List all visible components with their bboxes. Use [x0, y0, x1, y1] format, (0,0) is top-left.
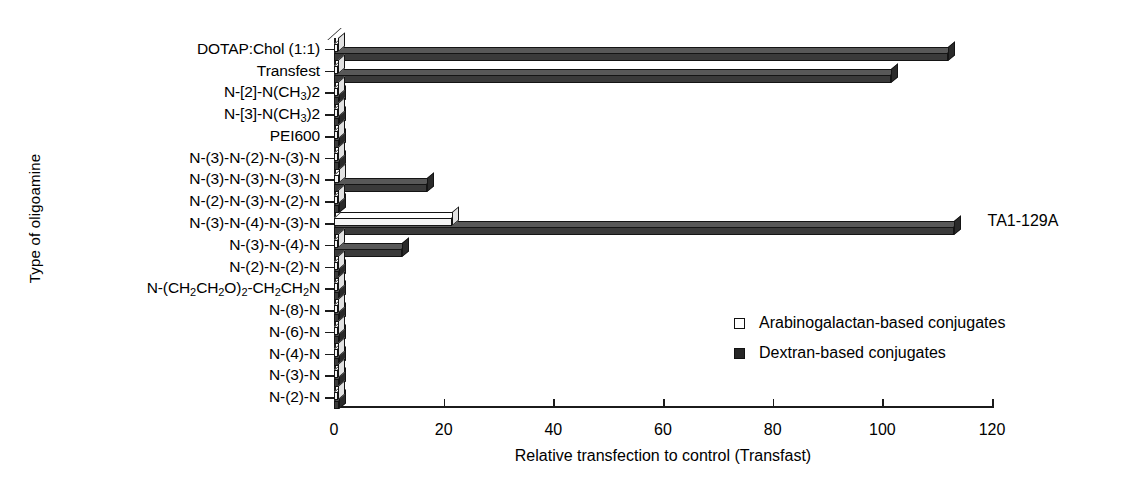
- bar-annotation: TA1-129A: [988, 212, 1059, 230]
- y-axis-tick: [325, 114, 334, 116]
- bar-arabinogalactan: [334, 392, 338, 400]
- y-axis-tick: [325, 375, 334, 377]
- bar-dextran: [334, 184, 427, 192]
- y-axis-tick: [325, 397, 334, 399]
- x-axis-tick: [773, 399, 775, 408]
- y-axis-tick: [325, 92, 334, 94]
- y-axis-tick: [325, 71, 334, 73]
- y-axis-tick: [325, 310, 334, 312]
- bar-arabinogalactan: [334, 262, 338, 270]
- bar-arabinogalactan: [334, 66, 338, 74]
- y-axis-tick-label: N-[2]-N(CH3)2: [224, 81, 320, 103]
- bar-arabinogalactan: [334, 131, 338, 139]
- bar-side: [954, 215, 961, 235]
- bar-arabinogalactan: [334, 218, 452, 226]
- x-axis-tick-label: 20: [435, 421, 453, 439]
- legend-swatch-filled-icon: [734, 348, 745, 359]
- bar-face: [334, 53, 948, 61]
- x-axis-tick-label: 60: [654, 421, 672, 439]
- bar-arabinogalactan: [334, 109, 338, 117]
- bar-arabinogalactan: [334, 153, 338, 161]
- y-axis-tick-label: N-(3)-N: [269, 364, 320, 386]
- y-axis-tick: [325, 267, 334, 269]
- y-axis-tick: [325, 201, 334, 203]
- x-axis-tick-label: 0: [330, 421, 339, 439]
- y-axis-tick-label: N-(3)-N-(2)-N-(3)-N: [189, 147, 320, 169]
- legend-item: Dextran-based conjugates: [734, 338, 1005, 368]
- y-axis-tick: [325, 288, 334, 290]
- bar-arabinogalactan: [334, 349, 338, 357]
- y-axis-tick-label: N-(2)-N: [269, 386, 320, 408]
- y-axis-tick-label: N-(2)-N-(3)-N-(2)-N: [189, 190, 320, 212]
- y-axis-tick-label: Transfest: [257, 60, 320, 82]
- bar-arabinogalactan: [334, 305, 338, 313]
- bar-arabinogalactan: [334, 240, 338, 248]
- x-axis-tick-label: 80: [764, 421, 782, 439]
- y-axis-tick: [325, 49, 334, 51]
- x-axis-tick-label: 40: [544, 421, 562, 439]
- y-axis-tick-label: N-(3)-N-(3)-N-(3)-N: [189, 168, 320, 190]
- bar-face: [334, 75, 891, 83]
- bar-side: [891, 63, 898, 83]
- y-axis-tick-label: N-(3)-N-(4)-N: [229, 234, 320, 256]
- x-axis-tick: [882, 399, 884, 408]
- y-axis-tick-label: N-(6)-N: [269, 321, 320, 343]
- y-axis-tick-label: N-[3]-N(CH3)2: [224, 103, 320, 125]
- y-axis-tick: [325, 179, 334, 181]
- x-axis-tick-label: 100: [869, 421, 896, 439]
- bar-arabinogalactan: [334, 175, 339, 183]
- legend-item: Arabinogalactan-based conjugates: [734, 308, 1005, 338]
- y-axis-tick: [325, 136, 334, 138]
- x-axis-tick: [663, 399, 665, 408]
- bar-dextran: [334, 227, 954, 235]
- bar-dextran: [334, 75, 891, 83]
- x-axis-tick: [992, 399, 994, 408]
- y-axis-tick: [325, 354, 334, 356]
- bar-arabinogalactan: [334, 196, 338, 204]
- y-axis-tick-label: N-(3)-N-(4)-N-(3)-N: [189, 212, 320, 234]
- y-axis-tick-label: N-(CH2CH2O)2-CH2CH2N: [147, 277, 320, 299]
- x-axis-tick: [553, 399, 555, 408]
- bar-face: [334, 227, 954, 235]
- bar-side: [427, 172, 434, 192]
- bar-dextran: [334, 53, 948, 61]
- y-axis-tick: [325, 223, 334, 225]
- y-axis-tick-label: DOTAP:Chol (1:1): [197, 38, 320, 60]
- y-axis-tick: [325, 332, 334, 334]
- bar-side: [948, 41, 955, 61]
- bar-face: [334, 184, 427, 192]
- y-axis-tick-label: N-(4)-N: [269, 343, 320, 365]
- bar-side: [402, 237, 409, 257]
- bar-arabinogalactan: [334, 370, 338, 378]
- bar-face: [334, 218, 452, 226]
- bar-arabinogalactan: [334, 44, 338, 52]
- chart-legend: Arabinogalactan-based conjugatesDextran-…: [734, 308, 1005, 368]
- y-axis-tick: [325, 245, 334, 247]
- y-axis-tick-label: PEI600: [270, 125, 320, 147]
- legend-swatch-open-icon: [734, 318, 745, 329]
- bar-chart-figure: Type of oligoamine DOTAP:Chol (1:1)Trans…: [0, 0, 1124, 496]
- bar-arabinogalactan: [334, 283, 338, 291]
- y-axis-tick-label: N-(8)-N: [269, 299, 320, 321]
- bar-dextran: [334, 401, 339, 409]
- bar-arabinogalactan: [334, 327, 338, 335]
- x-axis-title: Relative transfection to control (Transf…: [334, 447, 992, 465]
- legend-label: Dextran-based conjugates: [759, 344, 946, 362]
- x-axis-tick-label: 120: [979, 421, 1006, 439]
- y-axis-category-labels: DOTAP:Chol (1:1)TransfestN-[2]-N(CH3)2N-…: [30, 30, 326, 408]
- x-axis-tick: [444, 399, 446, 408]
- y-axis-tick-label: N-(2)-N-(2)-N: [229, 256, 320, 278]
- y-axis-tick: [325, 158, 334, 160]
- bar-arabinogalactan: [334, 88, 338, 96]
- legend-label: Arabinogalactan-based conjugates: [759, 314, 1005, 332]
